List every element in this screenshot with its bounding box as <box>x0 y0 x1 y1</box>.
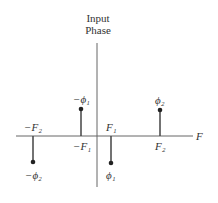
dot-f2 <box>158 108 163 113</box>
phase-label-neg-f1: −ϕ₁ <box>73 94 90 105</box>
freq-label-f1: F₁ <box>106 122 117 133</box>
title-line2: Phase <box>82 24 114 36</box>
phase-label-neg-f2: −ϕ₂ <box>25 170 42 181</box>
freq-label-f2: F₂ <box>155 141 166 152</box>
phase-label-f1: ϕ₁ <box>106 170 116 181</box>
phase-label-f2: ϕ₂ <box>155 95 165 106</box>
freq-label-neg-f2: −F₂ <box>24 122 42 133</box>
dot-neg-f2 <box>31 160 36 165</box>
x-axis-label: F <box>196 131 203 142</box>
title-line1: Input <box>82 12 114 24</box>
dot-neg-f1 <box>79 107 84 112</box>
dot-f1 <box>109 161 114 166</box>
freq-label-neg-f1: −F₁ <box>73 141 91 152</box>
y-axis-title: Input Phase <box>82 12 114 36</box>
